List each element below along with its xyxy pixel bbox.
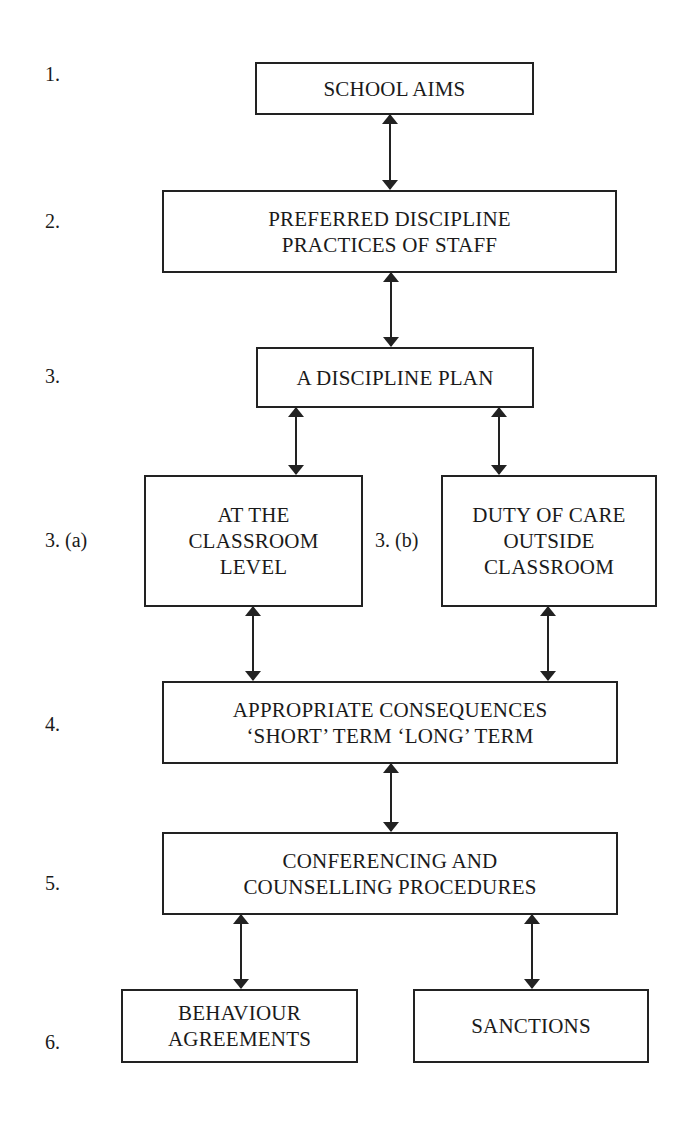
- node-text: CLASSROOM: [188, 528, 318, 554]
- node-sanctions: SANCTIONS: [413, 989, 649, 1063]
- step-label-4: 4.: [45, 713, 60, 735]
- step-label-3a: 3. (a): [45, 529, 87, 551]
- node-duty-of-care: DUTY OF CARE OUTSIDE CLASSROOM: [441, 475, 657, 607]
- node-text: LEVEL: [220, 554, 287, 580]
- node-conferencing-counselling: CONFERENCING AND COUNSELLING PROCEDURES: [162, 832, 618, 915]
- node-text: AGREEMENTS: [168, 1026, 311, 1052]
- node-school-aims: SCHOOL AIMS: [255, 62, 534, 115]
- node-text: CLASSROOM: [484, 554, 614, 580]
- step-label-3b: 3. (b): [375, 529, 418, 551]
- node-behaviour-agreements: BEHAVIOUR AGREEMENTS: [121, 989, 358, 1063]
- node-text: AT THE: [217, 502, 289, 528]
- node-text: APPROPRIATE CONSEQUENCES: [233, 697, 548, 723]
- step-label-1: 1.: [45, 63, 60, 85]
- node-text: SANCTIONS: [471, 1013, 591, 1039]
- node-text: ‘SHORT’ TERM ‘LONG’ TERM: [246, 723, 533, 749]
- node-discipline-plan: A DISCIPLINE PLAN: [256, 347, 534, 408]
- node-text: A DISCIPLINE PLAN: [296, 365, 493, 391]
- node-text: CONFERENCING AND: [283, 848, 498, 874]
- node-text: PRACTICES OF STAFF: [282, 232, 498, 258]
- step-label-5: 5.: [45, 872, 60, 894]
- node-preferred-discipline-practices: PREFERRED DISCIPLINE PRACTICES OF STAFF: [162, 190, 617, 273]
- node-text: COUNSELLING PROCEDURES: [243, 874, 536, 900]
- node-text: SCHOOL AIMS: [323, 76, 465, 102]
- node-text: DUTY OF CARE: [472, 502, 625, 528]
- node-text: PREFERRED DISCIPLINE: [268, 206, 511, 232]
- step-label-2: 2.: [45, 210, 60, 232]
- node-text: BEHAVIOUR: [178, 1000, 301, 1026]
- step-label-3: 3.: [45, 365, 60, 387]
- node-classroom-level: AT THE CLASSROOM LEVEL: [144, 475, 363, 607]
- node-appropriate-consequences: APPROPRIATE CONSEQUENCES ‘SHORT’ TERM ‘L…: [162, 681, 618, 764]
- step-label-6: 6.: [45, 1031, 60, 1053]
- node-text: OUTSIDE: [503, 528, 594, 554]
